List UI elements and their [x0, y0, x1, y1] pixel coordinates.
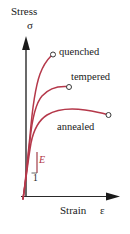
modulus-slope-triangle — [32, 152, 38, 173]
curve-quenched — [23, 52, 56, 199]
x-axis-title: Strain — [60, 205, 86, 216]
curve-label-tempered: tempered — [71, 72, 110, 83]
endpoint-marker-tempered — [67, 85, 72, 90]
unit-rise-label: 1 — [33, 174, 38, 184]
curve-label-quenched: quenched — [59, 47, 99, 58]
curve-tempered — [23, 85, 72, 200]
y-axis-arrowhead — [22, 36, 30, 50]
y-axis-title: Stress — [11, 6, 37, 17]
x-axis-arrowhead — [106, 193, 120, 201]
x-axis-symbol: ε — [100, 205, 105, 216]
stress-strain-plot — [0, 0, 130, 234]
modulus-label: E — [39, 155, 45, 165]
stress-strain-figure: Stress σ Strain ε quenched tempered anne… — [0, 0, 130, 234]
x-axis — [21, 193, 120, 201]
y-axis-symbol: σ — [27, 20, 33, 31]
endpoint-marker-quenched — [51, 52, 56, 57]
endpoint-marker-annealed — [106, 113, 111, 118]
curve-label-annealed: annealed — [57, 122, 94, 133]
